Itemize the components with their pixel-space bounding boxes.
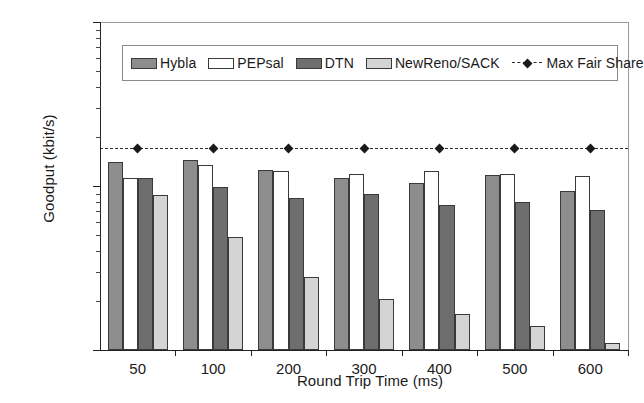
chart-legend: HyblaPEPsalDTNNewReno/SACKMax Fair Share — [122, 45, 618, 81]
y-tick-minor — [96, 222, 101, 223]
legend-item: Max Fair Share — [512, 55, 644, 71]
bar — [364, 194, 379, 350]
x-tick-label: 400 — [399, 360, 479, 377]
max-fair-share-marker — [434, 143, 444, 153]
x-tick — [553, 350, 554, 356]
bar — [304, 277, 319, 350]
bar — [108, 162, 123, 350]
legend-swatch-icon — [208, 58, 234, 69]
y-tick-minor — [96, 251, 101, 252]
legend-swatch-icon — [131, 58, 157, 69]
y-tick-minor — [96, 272, 101, 273]
bar — [213, 187, 228, 350]
y-tick-minor — [96, 71, 101, 72]
chart-figure: Goodput (kbit/s) Round Trip Time (ms) 10… — [0, 0, 644, 403]
max-fair-share-marker — [133, 143, 143, 153]
legend-label: Max Fair Share — [547, 55, 644, 71]
bar — [485, 175, 500, 350]
legend-label: PEPsal — [237, 55, 284, 71]
bar — [334, 178, 349, 350]
x-tick-label: 200 — [249, 360, 329, 377]
max-fair-share-marker — [284, 143, 294, 153]
x-tick-label: 50 — [98, 360, 178, 377]
legend-label: DTN — [325, 55, 354, 71]
bar — [153, 195, 168, 350]
bar — [273, 171, 288, 350]
dashed-line-marker-icon — [512, 58, 542, 68]
y-tick-minor — [96, 301, 101, 302]
y-tick-minor — [96, 58, 101, 59]
bar — [500, 174, 515, 350]
max-fair-share-marker — [208, 143, 218, 153]
bar — [228, 237, 243, 350]
y-tick-minor — [96, 108, 101, 109]
bar — [424, 171, 439, 350]
y-tick-minor — [96, 30, 101, 31]
bar — [605, 343, 620, 350]
x-tick — [628, 350, 629, 356]
bar — [560, 191, 575, 350]
bar — [409, 183, 424, 350]
x-axis-line — [100, 350, 629, 351]
bar — [379, 299, 394, 350]
bar — [123, 178, 138, 350]
bar — [530, 326, 545, 350]
bar — [289, 198, 304, 350]
bar — [590, 210, 605, 350]
bar — [349, 174, 364, 350]
y-axis-label: Goodput (kbit/s) — [40, 59, 57, 279]
legend-item: NewReno/SACK — [366, 55, 500, 71]
max-fair-share-marker — [359, 143, 369, 153]
plot-top-border — [100, 22, 629, 23]
y-tick-minor — [96, 87, 101, 88]
y-tick-minor — [96, 47, 101, 48]
legend-swatch-icon — [366, 58, 392, 69]
bar — [138, 178, 153, 350]
y-tick-minor — [96, 235, 101, 236]
bar — [575, 176, 590, 350]
y-tick-minor — [96, 38, 101, 39]
y-tick-major — [93, 350, 101, 351]
x-tick — [175, 350, 176, 356]
x-tick — [477, 350, 478, 356]
max-fair-share-marker — [510, 143, 520, 153]
x-tick-label: 600 — [550, 360, 630, 377]
legend-label: NewReno/SACK — [395, 55, 500, 71]
x-tick — [251, 350, 252, 356]
bar — [198, 165, 213, 350]
bar — [515, 202, 530, 350]
bar — [439, 205, 454, 350]
legend-item: DTN — [296, 55, 354, 71]
y-tick-minor — [96, 202, 101, 203]
legend-swatch-icon — [296, 58, 322, 69]
x-tick — [402, 350, 403, 356]
y-tick-major — [93, 186, 101, 187]
x-tick — [326, 350, 327, 356]
y-tick-minor — [96, 211, 101, 212]
legend-label: Hybla — [160, 55, 196, 71]
bar — [455, 314, 470, 350]
bar — [258, 170, 273, 350]
y-tick-major — [93, 22, 101, 23]
y-tick-minor — [96, 137, 101, 138]
x-tick-label: 500 — [475, 360, 555, 377]
plot-right-border — [628, 22, 629, 351]
bar — [183, 160, 198, 350]
y-tick-minor — [96, 194, 101, 195]
legend-item: Hybla — [131, 55, 196, 71]
x-tick-label: 300 — [324, 360, 404, 377]
max-fair-share-marker — [585, 143, 595, 153]
x-tick-label: 100 — [173, 360, 253, 377]
legend-item: PEPsal — [208, 55, 284, 71]
